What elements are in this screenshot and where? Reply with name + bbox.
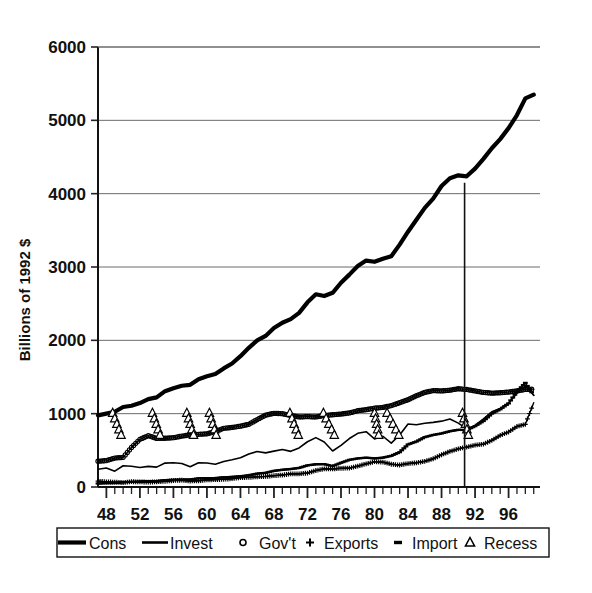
x-tick-label: 52 <box>130 505 149 524</box>
y-tick-label: 0 <box>77 478 86 497</box>
x-tick-label: 92 <box>466 505 485 524</box>
legend-label-govt: Gov't <box>259 535 296 552</box>
legend-label-recess: Recess <box>484 535 537 552</box>
y-tick-label: 5000 <box>48 111 86 130</box>
x-tick-label: 96 <box>499 505 518 524</box>
x-tick-label: 84 <box>399 505 418 524</box>
chart-figure: 0100020003000400050006000 48525660646872… <box>0 0 592 593</box>
x-tick-label: 88 <box>432 505 451 524</box>
legend-label-invest: Invest <box>170 535 213 552</box>
y-tick-label: 3000 <box>48 258 86 277</box>
y-axis-title-text: Billions of 1992 $ <box>16 238 33 361</box>
y-tick-label: 2000 <box>48 331 86 350</box>
legend-label-cons: Cons <box>89 535 126 552</box>
x-tick-label: 72 <box>298 505 317 524</box>
y-tick-label: 6000 <box>48 38 86 57</box>
y-tick-label: 1000 <box>48 405 86 424</box>
x-tick-label: 68 <box>265 505 284 524</box>
legend-border <box>57 528 549 557</box>
legend-label-exports: Exports <box>324 535 378 552</box>
y-axis-title: Billions of 1992 $ <box>16 238 33 361</box>
x-tick-label: 48 <box>97 505 116 524</box>
legend-label-import: Import <box>412 535 458 552</box>
chart-canvas: 0100020003000400050006000 48525660646872… <box>0 0 592 593</box>
x-tick-label: 80 <box>365 505 384 524</box>
y-tick-label: 4000 <box>48 185 86 204</box>
x-tick-label: 56 <box>164 505 183 524</box>
chart-legend: ConsInvestGov'tExportsImportRecess <box>57 528 549 557</box>
x-tick-label: 76 <box>332 505 351 524</box>
x-tick-label: 60 <box>197 505 216 524</box>
x-tick-label: 64 <box>231 505 250 524</box>
